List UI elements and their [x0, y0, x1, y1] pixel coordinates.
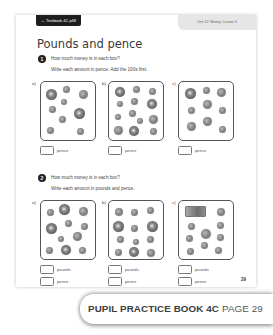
book-caption-banner: PUPIL PRACTICE BOOK 4CPAGE 29	[80, 294, 273, 324]
q2-part-b-label: b)	[102, 200, 106, 205]
question-2-instruction: Write each amount in pounds and pence.	[51, 186, 135, 191]
coin-icon	[188, 107, 195, 114]
q2-c-pence-label: pence	[195, 279, 206, 284]
coin-icon	[73, 232, 82, 241]
unit-lesson-tab: Unit 12: Money, Lesson 3	[178, 15, 256, 30]
coin-icon	[46, 223, 57, 234]
coin-icon	[61, 99, 67, 105]
coin-icon	[201, 229, 211, 239]
coin-icon	[219, 126, 226, 133]
coin-icon	[59, 204, 70, 215]
coin-icon	[217, 222, 224, 229]
coin-icon	[46, 89, 57, 100]
q2-coin-box-c	[178, 200, 234, 260]
coin-icon	[115, 249, 122, 256]
coin-icon	[185, 88, 196, 99]
coin-icon	[131, 225, 138, 232]
coin-icon	[65, 220, 72, 227]
coin-icon	[137, 118, 143, 124]
q2-a-pence-input[interactable]	[40, 277, 54, 286]
coin-icon	[58, 236, 64, 242]
q1-part-c-label: c)	[172, 81, 176, 86]
q2-a-pence-label: pence	[57, 279, 68, 284]
coin-icon	[47, 127, 54, 134]
page-number: 29	[241, 277, 246, 282]
q2-b-pence-label: pence	[125, 279, 136, 284]
coin-icon	[133, 239, 139, 245]
q2-c-pounds-label: pounds	[195, 267, 209, 272]
q1-part-a-label: a)	[32, 81, 36, 86]
coin-icon	[133, 86, 140, 93]
coin-icon	[117, 236, 124, 243]
coin-icon	[59, 116, 66, 123]
caption-text: PUPIL PRACTICE BOOK 4CPAGE 29	[88, 303, 263, 314]
q2-coin-box-a	[40, 200, 96, 260]
q2-c-pounds-input[interactable]	[178, 265, 192, 274]
question-2-prompt: How much money is in each box?	[51, 175, 120, 180]
coin-icon	[186, 235, 193, 242]
coin-icon	[147, 221, 158, 232]
coin-icon	[147, 236, 154, 243]
coin-icon	[77, 128, 84, 135]
coin-icon	[149, 88, 156, 95]
coin-icon	[217, 208, 225, 216]
coin-icon	[79, 247, 86, 254]
coin-icon	[150, 128, 157, 135]
q2-a-pounds-label: pounds	[57, 267, 71, 272]
coin-icon	[49, 106, 56, 113]
coin-icon	[79, 90, 88, 99]
coin-icon	[131, 209, 138, 216]
question-number-1: 1	[38, 55, 46, 63]
q2-part-c-label: c)	[172, 200, 176, 205]
coin-icon	[147, 249, 155, 257]
coin-icon	[63, 86, 70, 93]
coin-icon	[129, 126, 139, 136]
q2-part-a-label: a)	[32, 200, 36, 205]
q1-part-b-label: b)	[102, 81, 106, 86]
q2-b-pounds-input[interactable]	[108, 265, 122, 274]
coin-icon	[74, 108, 85, 119]
coin-icon	[61, 245, 71, 255]
caption-page-label: PAGE 29	[222, 303, 263, 314]
coin-icon	[203, 117, 212, 126]
coin-icon	[115, 114, 121, 120]
coin-icon	[131, 98, 138, 105]
coin-icon	[147, 99, 157, 109]
coin-icon	[47, 209, 54, 216]
coin-icon	[187, 248, 194, 255]
q1-a-answer-input[interactable]	[40, 146, 54, 155]
coin-icon	[81, 223, 88, 230]
coin-icon	[79, 207, 88, 216]
caption-book-title: PUPIL PRACTICE BOOK 4C	[88, 303, 219, 314]
coin-icon	[147, 207, 154, 214]
q2-a-pounds-input[interactable]	[40, 265, 54, 274]
coin-icon	[129, 247, 139, 257]
coin-icon	[187, 122, 196, 131]
q2-c-pence-input[interactable]	[178, 277, 192, 286]
q1-b-unit-label: pence	[125, 148, 136, 153]
coin-icon	[203, 100, 212, 109]
coin-icon	[113, 221, 124, 232]
q1-c-unit-label: pence	[195, 148, 206, 153]
banknote-icon	[185, 206, 206, 217]
q1-coin-box-c	[178, 81, 234, 141]
coin-icon	[129, 110, 136, 117]
coin-icon	[219, 107, 226, 114]
textbook-reference-tab: ← Textbook 4C p48	[36, 15, 81, 26]
q2-b-pence-input[interactable]	[108, 277, 122, 286]
coin-icon	[115, 208, 123, 216]
question-1-prompt: How much money is in each box?	[51, 56, 120, 61]
coin-icon	[188, 223, 195, 230]
question-number-2: 2	[38, 174, 46, 182]
coin-icon	[114, 126, 123, 135]
q1-coin-box-a	[40, 81, 96, 141]
coin-icon	[149, 115, 158, 124]
coin-icon	[217, 234, 224, 241]
coin-icon	[215, 247, 222, 254]
coin-icon	[203, 87, 210, 94]
q1-b-answer-input[interactable]	[108, 146, 122, 155]
q1-c-answer-input[interactable]	[178, 146, 192, 155]
coin-icon	[115, 87, 125, 97]
q2-b-pounds-label: pounds	[125, 267, 139, 272]
worksheet-page: ← Textbook 4C p48 Unit 12: Money, Lesson…	[16, 15, 256, 287]
